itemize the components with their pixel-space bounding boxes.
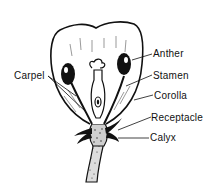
label-calyx: Calyx — [150, 133, 176, 143]
label-anther: Anther — [153, 49, 184, 59]
receptacle — [89, 124, 107, 146]
label-corolla: Corolla — [154, 91, 187, 101]
label-carpel: Carpel — [14, 71, 45, 81]
carpel — [90, 59, 105, 118]
label-stamen: Stamen — [153, 71, 189, 81]
label-receptacle: Receptacle — [151, 113, 203, 123]
